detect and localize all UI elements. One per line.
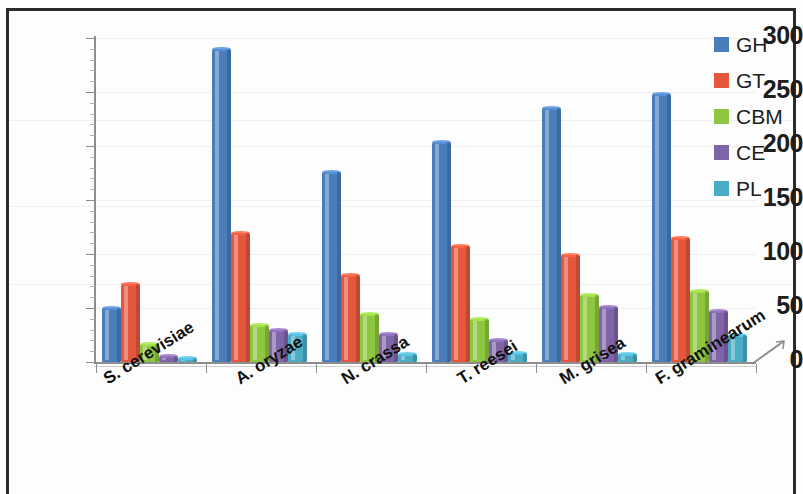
legend-item-label: CE — [736, 142, 765, 163]
bar — [212, 49, 231, 362]
x-axis-tick — [316, 364, 317, 373]
gridline — [96, 38, 756, 39]
legend-item-label: GH — [736, 34, 768, 55]
y-axis-tick — [86, 38, 95, 39]
y-axis-minor-tick — [90, 243, 95, 244]
bar-highlight — [325, 174, 329, 360]
legend-item[interactable]: GH — [714, 28, 798, 60]
bar-shadow — [667, 94, 671, 362]
y-axis-minor-tick — [90, 211, 95, 212]
y-axis-minor-tick — [90, 222, 95, 223]
bar — [341, 275, 360, 362]
bar — [432, 142, 451, 362]
plot-area — [96, 38, 756, 362]
bar-highlight — [253, 327, 257, 360]
bar-shadow — [576, 255, 580, 362]
bar-shadow — [227, 49, 231, 362]
y-axis-minor-tick — [90, 157, 95, 158]
axis-depth-icon — [752, 340, 786, 366]
bar-shadow — [686, 238, 690, 362]
y-axis-tick — [86, 254, 95, 255]
legend-swatch-icon — [714, 73, 729, 88]
legend-item-label: GT — [736, 70, 765, 91]
chart-figure: 050100150200250300 S. cerevisiaeA. oryza… — [0, 0, 803, 494]
bar — [102, 308, 121, 362]
x-axis-tick — [756, 364, 757, 373]
bar — [451, 246, 470, 362]
y-axis-minor-tick — [90, 103, 95, 104]
y-axis-minor-tick — [90, 178, 95, 179]
bar-shadow — [466, 246, 470, 362]
bar-highlight — [583, 297, 587, 360]
y-axis-minor-tick — [90, 168, 95, 169]
legend-item-label: PL — [736, 178, 762, 199]
bar-highlight — [674, 240, 678, 360]
bar — [561, 255, 580, 362]
bar-highlight — [545, 110, 549, 360]
legend-swatch-icon — [714, 37, 729, 52]
y-axis-minor-tick — [90, 114, 95, 115]
y-axis-minor-tick — [90, 265, 95, 266]
y-axis-minor-tick — [90, 232, 95, 233]
y-axis-tick — [86, 308, 95, 309]
bar-highlight — [234, 235, 238, 360]
x-axis-line-shadow — [94, 366, 756, 367]
bar-highlight — [215, 51, 219, 360]
y-axis-minor-tick — [90, 351, 95, 352]
bar-shadow — [633, 354, 637, 362]
bar-highlight — [621, 356, 625, 360]
x-axis-tick — [96, 364, 97, 373]
legend-swatch-icon — [714, 109, 729, 124]
bar-shadow — [557, 108, 561, 362]
x-axis-tick — [426, 364, 427, 373]
y-axis-minor-tick — [90, 340, 95, 341]
bar-shadow — [743, 335, 747, 362]
bar-shadow — [447, 142, 451, 362]
y-axis-tick — [86, 92, 95, 93]
bar — [652, 94, 671, 362]
bar-highlight — [124, 286, 128, 360]
x-axis-tick — [206, 364, 207, 373]
bar — [618, 354, 637, 362]
bar-shadow — [337, 172, 341, 362]
y-axis-minor-tick — [90, 60, 95, 61]
bar — [231, 233, 250, 362]
bar-shadow — [523, 353, 527, 362]
bar-highlight — [435, 144, 439, 360]
bar-shadow — [117, 308, 121, 362]
y-axis-minor-tick — [90, 330, 95, 331]
x-axis-tick — [646, 364, 647, 373]
bar-highlight — [454, 248, 458, 360]
bar-highlight — [401, 356, 405, 360]
y-axis-minor-tick — [90, 286, 95, 287]
bar-shadow — [413, 354, 417, 362]
legend-item[interactable]: CE — [714, 136, 798, 168]
y-axis-minor-tick — [90, 81, 95, 82]
legend-swatch-icon — [714, 181, 729, 196]
y-axis-tick — [86, 146, 95, 147]
bar-shadow — [246, 233, 250, 362]
bar-highlight — [105, 310, 109, 360]
legend-item[interactable]: PL — [714, 172, 798, 204]
bar-highlight — [473, 321, 477, 360]
y-axis-minor-tick — [90, 297, 95, 298]
legend-item-label: CBM — [736, 106, 783, 127]
chart-legend: GHGTCBMCEPL — [714, 28, 798, 208]
bar-shadow — [356, 275, 360, 362]
legend-item[interactable]: CBM — [714, 100, 798, 132]
bar-highlight — [162, 358, 166, 360]
bar — [671, 238, 690, 362]
y-axis-minor-tick — [90, 70, 95, 71]
bar — [322, 172, 341, 362]
y-axis-minor-tick — [90, 135, 95, 136]
legend-swatch-icon — [714, 145, 729, 160]
y-axis-minor-tick — [90, 319, 95, 320]
legend-item[interactable]: GT — [714, 64, 798, 96]
bar-highlight — [344, 277, 348, 360]
y-axis-tick — [86, 200, 95, 201]
x-axis-line — [94, 362, 756, 364]
bar-highlight — [655, 96, 659, 360]
y-axis-minor-tick — [90, 189, 95, 190]
y-axis-minor-tick — [90, 49, 95, 50]
x-axis-tick — [536, 364, 537, 373]
